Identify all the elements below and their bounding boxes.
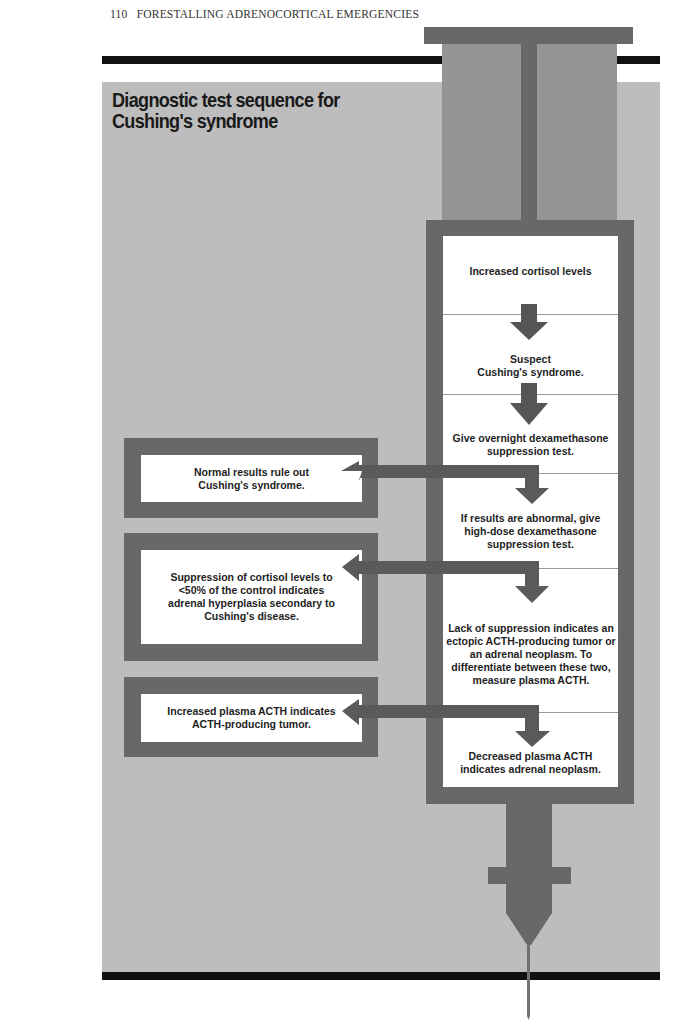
branch-arrow-acth	[342, 699, 550, 747]
flow-arrows	[0, 0, 691, 1035]
left-arrow-icon	[342, 699, 539, 725]
syringe-needle	[527, 944, 530, 1016]
branch-arrow-normal	[341, 461, 549, 504]
branch-arrow-suppression	[342, 554, 549, 603]
needle-tip	[527, 1016, 530, 1020]
down-arrow-icon	[510, 383, 548, 425]
syringe-cone	[506, 913, 552, 945]
down-arrow-icon	[510, 304, 548, 340]
left-arrow-icon	[341, 461, 525, 481]
left-arrow-icon	[342, 554, 539, 581]
